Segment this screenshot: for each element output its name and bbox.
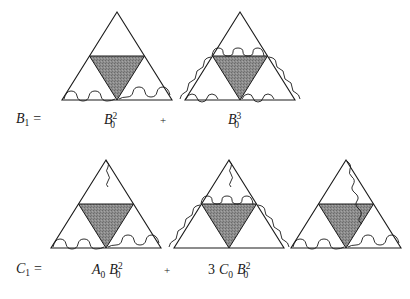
- b0-sq-sub: 0: [110, 120, 115, 130]
- diagram-svg: [0, 0, 410, 299]
- label-a0-b0-squared: A0B20: [92, 262, 120, 280]
- diagram-b0-cubed: [180, 12, 300, 102]
- label-3-c0-b0-squared: 3C0B20: [208, 262, 248, 280]
- a0-sub: 0: [101, 270, 106, 280]
- c0-sub: 0: [228, 270, 233, 280]
- equation-lhs-c1: C1=: [16, 262, 42, 279]
- lhs-b1-sub: 1: [25, 118, 30, 128]
- plus-operator-row2: +: [164, 264, 170, 276]
- lhs-b1-base: B: [16, 111, 25, 126]
- b0-cu-sub: 0: [234, 120, 239, 130]
- lhs-c1-sub: 1: [25, 268, 30, 278]
- diagram-a0-b0-squared: [51, 160, 161, 249]
- equation-lhs-b1: B1=: [16, 112, 41, 129]
- coefficient-3: 3: [208, 262, 215, 277]
- a0b0-sub: 0: [116, 270, 121, 280]
- a0-base: A: [92, 262, 101, 277]
- diagram-third-unlabeled: [291, 160, 401, 249]
- label-b0-squared: B20: [104, 112, 115, 130]
- lhs-c1-base: C: [16, 261, 25, 276]
- plus-operator-row1: +: [160, 114, 166, 126]
- figure-root: B1= B20 + B30 C1= A0B20 + 3C0B20: [0, 0, 410, 299]
- label-b0-cubed: B30: [228, 112, 239, 130]
- equals-sign-row2: =: [34, 261, 42, 276]
- diagram-3-c0-b0-squared: [169, 160, 289, 248]
- equals-sign-row1: =: [33, 111, 41, 126]
- diagram-b0-squared: [62, 12, 172, 101]
- c0b0-sub: 0: [243, 270, 248, 280]
- c0-base: C: [219, 262, 228, 277]
